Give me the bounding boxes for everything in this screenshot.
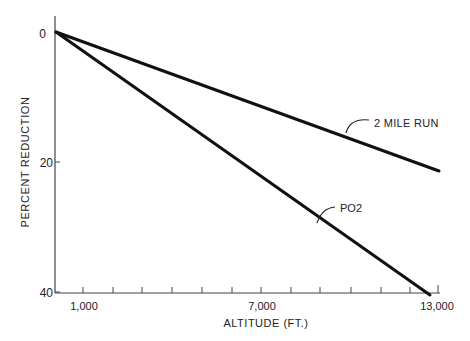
y-tick-label-0: 0: [39, 27, 46, 41]
series-2-mile-run-line: [56, 32, 439, 171]
chart: 0 20 40 1,000 7,000 13,000 ALTITUDE (FT.…: [0, 0, 470, 341]
y-axis-label: PERCENT REDUCTION: [19, 96, 31, 227]
y-tick-label-20: 20: [40, 156, 54, 170]
x-axis-label: ALTITUDE (FT.): [223, 317, 308, 329]
annotation-leader-2-mile-run: [346, 120, 369, 133]
series-po2-line: [56, 32, 430, 295]
series-label-2-mile-run: 2 MILE RUN: [374, 117, 439, 129]
x-tick-label-13000: 13,000: [420, 300, 454, 312]
y-tick-label-40: 40: [40, 286, 54, 300]
series-label-po2: PO2: [340, 202, 362, 214]
x-tick-label-7000: 7,000: [248, 300, 276, 312]
x-ticks: [83, 285, 438, 293]
x-tick-label-1000: 1,000: [70, 300, 98, 312]
